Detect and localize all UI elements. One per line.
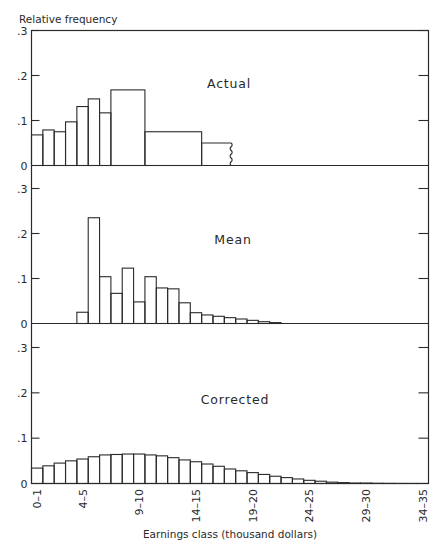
histogram-bar — [156, 288, 167, 324]
histogram-bar — [77, 459, 88, 483]
histogram-bar — [111, 293, 122, 323]
histogram-bar — [281, 478, 292, 484]
panel-actual: .3.2.10Actual — [17, 25, 429, 173]
x-tick-label: 34–35 — [417, 489, 430, 523]
histogram-bar — [134, 302, 145, 324]
x-tick-label: 29–30 — [360, 489, 373, 523]
histogram-bar — [190, 313, 201, 324]
histogram-bar — [100, 455, 111, 484]
x-tick-label: 4–5 — [77, 489, 90, 509]
x-axis: 0–14–59–1014–1519–2024–2529–3034–35 — [31, 489, 430, 523]
histogram-bar — [145, 455, 156, 484]
histogram-bar — [88, 99, 99, 166]
y-tick-label: .3 — [17, 25, 28, 38]
y-tick-label: 0 — [21, 478, 28, 491]
y-tick-label: .2 — [17, 228, 28, 241]
histogram-bar — [122, 268, 133, 323]
histogram-bar — [338, 483, 349, 484]
y-tick-label: .2 — [17, 387, 28, 400]
histogram-bar — [32, 135, 43, 166]
histogram-bar — [236, 319, 247, 324]
histogram-bar — [43, 466, 54, 484]
panel-mean: .3.2.10Mean — [17, 183, 429, 331]
histogram-bar — [100, 277, 111, 324]
y-tick-label: .3 — [17, 342, 28, 355]
histogram-bar — [179, 303, 190, 324]
histogram-bar — [190, 462, 201, 484]
y-tick-label: .1 — [17, 273, 28, 286]
histogram-bar — [236, 471, 247, 484]
histogram-bar — [156, 456, 167, 484]
break-mark — [230, 143, 232, 166]
histogram-bar — [179, 460, 190, 484]
histogram-bar — [77, 312, 88, 323]
histogram-bar — [315, 481, 326, 483]
histogram-bar — [111, 90, 145, 166]
histogram-bar — [145, 277, 156, 324]
histogram-bar — [292, 479, 303, 484]
y-tick-label: .1 — [17, 115, 28, 128]
y-tick-label: 0 — [21, 318, 28, 331]
histogram-bar — [202, 464, 213, 483]
histogram-bar — [202, 315, 213, 324]
histogram-bar — [32, 468, 43, 483]
y-tick-label: 0 — [21, 160, 28, 173]
histogram-bar — [270, 476, 281, 483]
histogram-bar — [224, 469, 235, 484]
x-tick-label: 9–10 — [133, 489, 146, 516]
histogram-bar — [66, 122, 77, 166]
histogram-bar — [145, 132, 202, 166]
histogram-bar — [168, 458, 179, 484]
y-tick-label: .1 — [17, 432, 28, 445]
histogram-bar — [258, 474, 269, 483]
histogram-bar — [168, 289, 179, 324]
histogram-bar — [224, 318, 235, 324]
histogram-bar — [88, 218, 99, 324]
histogram-bar — [122, 454, 133, 483]
x-tick-label: 19–20 — [247, 489, 260, 523]
histogram-bar — [213, 466, 224, 483]
histogram-bar — [43, 130, 54, 166]
histogram-bar — [326, 482, 337, 483]
histogram-bar — [270, 323, 281, 324]
x-axis-label: Earnings class (thousand dollars) — [0, 528, 447, 540]
histogram-bar — [304, 480, 315, 483]
histogram-bar — [247, 320, 258, 323]
panel-corrected: .3.2.10Corrected — [17, 342, 429, 491]
histogram-bar — [66, 461, 77, 484]
histogram-bar — [77, 107, 88, 166]
histogram-bar — [100, 113, 111, 166]
histogram-bar — [258, 322, 269, 324]
panel-title: Mean — [214, 232, 251, 247]
x-tick-label: 24–25 — [303, 489, 316, 523]
chart-canvas: .3.2.10Actual.3.2.10Mean.3.2.10Corrected… — [0, 0, 447, 547]
panel-title: Actual — [207, 76, 251, 91]
histogram-bar — [134, 454, 145, 483]
histogram-bar — [247, 473, 258, 484]
x-tick-label: 14–15 — [190, 489, 203, 523]
histogram-bar — [213, 316, 224, 323]
y-tick-label: .2 — [17, 70, 28, 83]
histogram-bar — [88, 457, 99, 484]
x-tick-label: 0–1 — [31, 489, 44, 509]
histogram-bar — [202, 143, 231, 166]
histogram-bar — [54, 132, 65, 166]
histogram-bar — [111, 454, 122, 483]
histogram-bar — [54, 463, 65, 483]
y-tick-label: .3 — [17, 183, 28, 196]
panel-title: Corrected — [201, 392, 269, 407]
